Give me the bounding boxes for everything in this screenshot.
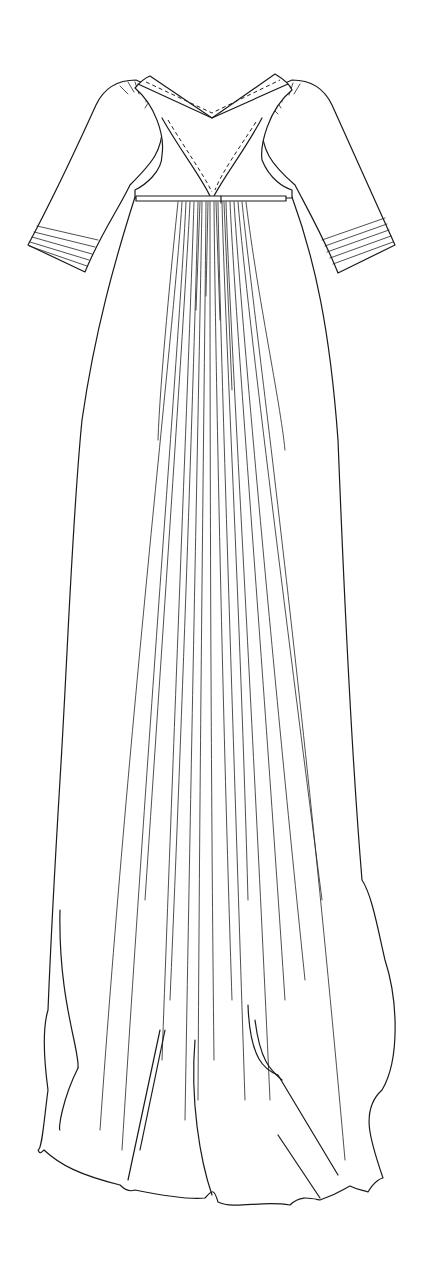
skirt bbox=[38, 197, 395, 1205]
gown-drawing bbox=[0, 0, 428, 1281]
waist-band bbox=[136, 196, 286, 201]
gown-illustration bbox=[0, 0, 428, 1281]
